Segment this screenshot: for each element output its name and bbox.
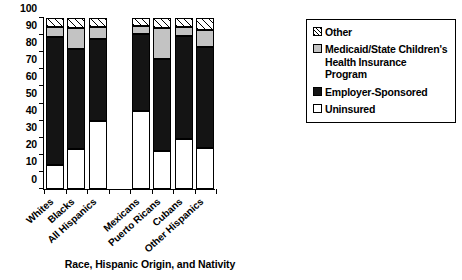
legend-item: Medicaid/State Children's Health Insuran… <box>313 43 450 80</box>
segment-employer-sponsored <box>153 59 171 150</box>
segment-uninsured <box>132 111 150 189</box>
segment-uninsured <box>46 165 64 189</box>
y-axis-tick <box>39 51 44 52</box>
bar-whites <box>46 18 64 189</box>
legend-item-label: Medicaid/State Children's Health Insuran… <box>325 43 450 80</box>
y-axis-tick-label: 20 <box>26 139 37 150</box>
segment-uninsured <box>89 121 107 189</box>
y-axis-tick-label: 70 <box>26 54 37 65</box>
bar-cubans <box>175 18 193 189</box>
segment-employer-sponsored <box>67 49 85 149</box>
y-axis-tick <box>39 154 44 155</box>
segment-employer-sponsored <box>132 34 150 111</box>
segment-other <box>46 18 64 27</box>
segment-uninsured <box>67 149 85 189</box>
segment-medicaid <box>89 27 107 39</box>
stacked-bar-chart: 0102030405060708090100 WhitesBlacksAll H… <box>0 0 462 280</box>
segment-other <box>153 18 171 28</box>
x-axis-tick <box>87 189 88 194</box>
y-axis-tick <box>39 103 44 104</box>
segment-medicaid <box>132 26 150 35</box>
y-axis-tick-label: 30 <box>26 122 37 133</box>
y-axis-tick <box>39 120 44 121</box>
legend-item: Employer-Sponsored <box>313 86 450 98</box>
segment-other <box>67 18 85 28</box>
y-axis-tick-label: 0 <box>31 173 37 184</box>
legend-item: Uninsured <box>313 103 450 115</box>
x-axis-tick <box>109 189 110 194</box>
segment-other <box>196 18 214 30</box>
y-axis-tick-label: 100 <box>20 2 37 13</box>
y-axis-tick <box>39 68 44 69</box>
x-axis-tick <box>216 189 217 194</box>
segment-employer-sponsored <box>46 37 64 165</box>
segment-medicaid <box>196 30 214 47</box>
legend: OtherMedicaid/State Children's Health In… <box>306 19 456 123</box>
segment-other <box>89 18 107 27</box>
segment-medicaid <box>67 28 85 49</box>
x-axis-title: Race, Hispanic Origin, and Nativity <box>0 258 300 270</box>
x-axis-tick <box>66 189 67 194</box>
x-axis-tick <box>44 189 45 194</box>
segment-uninsured <box>153 151 171 189</box>
x-axis-tick <box>152 189 153 194</box>
y-axis-tick <box>39 34 44 35</box>
segment-medicaid <box>175 27 193 36</box>
bar-all-hispanics <box>89 18 107 189</box>
segment-employer-sponsored <box>196 47 214 148</box>
segment-uninsured <box>196 148 214 189</box>
segment-other <box>132 18 150 26</box>
legend-item: Other <box>313 26 450 38</box>
x-axis-tick <box>173 189 174 194</box>
y-axis-tick <box>39 17 44 18</box>
legend-item-label: Employer-Sponsored <box>325 86 428 98</box>
y-axis-tick <box>39 171 44 172</box>
segment-other <box>175 18 193 27</box>
bar-blacks <box>67 18 85 189</box>
x-axis-tick <box>195 189 196 194</box>
y-axis-tick-label: 50 <box>26 88 37 99</box>
y-axis-tick <box>39 85 44 86</box>
bar-puerto-ricans <box>153 18 171 189</box>
y-axis-tick-label: 80 <box>26 36 37 47</box>
segment-uninsured <box>175 139 193 189</box>
hatched-swatch <box>313 27 322 36</box>
y-axis-tick-label: 10 <box>26 156 37 167</box>
x-axis-tick <box>130 189 131 194</box>
segment-employer-sponsored <box>175 36 193 139</box>
legend-item-label: Uninsured <box>325 103 375 115</box>
segment-employer-sponsored <box>89 39 107 122</box>
segment-medicaid <box>153 28 171 59</box>
segment-medicaid <box>46 27 64 37</box>
bar-mexicans <box>132 18 150 189</box>
white-swatch <box>313 104 322 113</box>
y-axis-tick-label: 90 <box>26 19 37 30</box>
gray-swatch <box>313 44 322 53</box>
bar-other-hispanics <box>196 18 214 189</box>
legend-item-label: Other <box>325 26 352 38</box>
y-axis-tick-label: 60 <box>26 71 37 82</box>
plot-area: 0102030405060708090100 WhitesBlacksAll H… <box>43 18 215 190</box>
y-axis-tick-label: 40 <box>26 105 37 116</box>
y-axis-tick <box>39 137 44 138</box>
black-swatch <box>313 87 322 96</box>
